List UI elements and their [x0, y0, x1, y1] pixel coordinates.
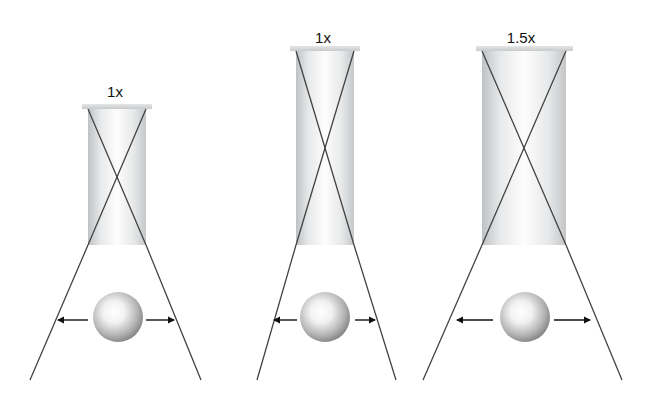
magnification-label: 1x: [315, 30, 331, 45]
panel-1: [30, 104, 201, 380]
tube-cap: [290, 46, 360, 51]
magnification-label: 1.5x: [507, 30, 535, 45]
tube-cap: [82, 104, 152, 109]
panel-2: [257, 46, 396, 380]
sphere: [500, 292, 550, 342]
sphere: [300, 292, 350, 342]
sphere: [93, 292, 143, 342]
magnification-label: 1x: [107, 84, 123, 99]
panel-3: [423, 46, 622, 380]
tube-diagram: [0, 0, 651, 405]
tube-cap: [476, 46, 573, 51]
